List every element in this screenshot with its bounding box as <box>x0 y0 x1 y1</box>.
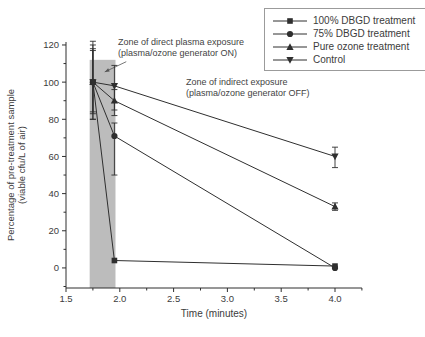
direct-exposure-annotation-line2: (plasma/ozone generator ON) <box>118 48 244 59</box>
legend-entry: Control <box>273 53 419 66</box>
x-axis-tick-label: 4.0 <box>328 293 341 304</box>
legend-marker-circle-icon <box>273 29 307 39</box>
indirect-exposure-annotation: Zone of indirect exposure (plasma/ozone … <box>186 77 310 99</box>
legend-entry: 100% DBGD treatment <box>273 14 419 27</box>
legend: 100% DBGD treatment75% DBGD treatmentPur… <box>264 8 425 71</box>
x-axis-tick-label: 2.0 <box>113 293 126 304</box>
y-axis-tick-label: 40 <box>48 188 59 199</box>
y-axis-tick-label: 60 <box>48 151 59 162</box>
y-axis-label-line1: Percentage of pre-treatment sample <box>5 89 16 241</box>
legend-label: Control <box>313 54 345 65</box>
direct-exposure-annotation-line1: Zone of direct plasma exposure <box>118 37 244 48</box>
x-axis-tick-label: 1.5 <box>59 293 72 304</box>
chart: 1.52.02.53.03.54.0020406080100120 Percen… <box>0 0 425 337</box>
data-point-marker <box>332 265 338 271</box>
y-axis-label-line2: (viable cfu/L of air) <box>16 89 27 241</box>
series-line <box>93 82 335 266</box>
direct-exposure-zone <box>90 60 116 288</box>
y-axis-tick-label: 80 <box>48 114 59 125</box>
data-point-marker <box>331 154 338 161</box>
x-axis-tick-label: 2.5 <box>167 293 180 304</box>
legend-label: 75% DBGD treatment <box>313 28 410 39</box>
indirect-exposure-annotation-line1: Zone of indirect exposure <box>186 77 310 88</box>
data-point-marker <box>331 203 338 210</box>
legend-marker-square-icon <box>273 16 307 26</box>
x-axis-tick-label: 3.0 <box>221 293 234 304</box>
direct-exposure-annotation: Zone of direct plasma exposure (plasma/o… <box>118 37 244 59</box>
y-axis-tick-label: 120 <box>43 39 59 50</box>
legend-marker-triangle-up-icon <box>273 42 307 52</box>
legend-label: Pure ozone treatment <box>313 41 409 52</box>
x-axis-tick-label: 3.5 <box>275 293 288 304</box>
legend-entry: 75% DBGD treatment <box>273 27 419 40</box>
x-axis-label: Time (minutes) <box>66 308 362 319</box>
data-point-marker <box>111 133 117 139</box>
legend-marker-triangle-down-icon <box>273 55 307 65</box>
y-axis-tick-label: 100 <box>43 77 59 88</box>
y-axis-tick-label: 0 <box>54 262 59 273</box>
series-line <box>93 82 335 268</box>
y-axis-tick-label: 20 <box>48 225 59 236</box>
data-point-marker <box>112 258 118 264</box>
legend-label: 100% DBGD treatment <box>313 15 415 26</box>
indirect-exposure-annotation-line2: (plasma/ozone generator OFF) <box>186 88 310 99</box>
legend-entry: Pure ozone treatment <box>273 40 419 53</box>
